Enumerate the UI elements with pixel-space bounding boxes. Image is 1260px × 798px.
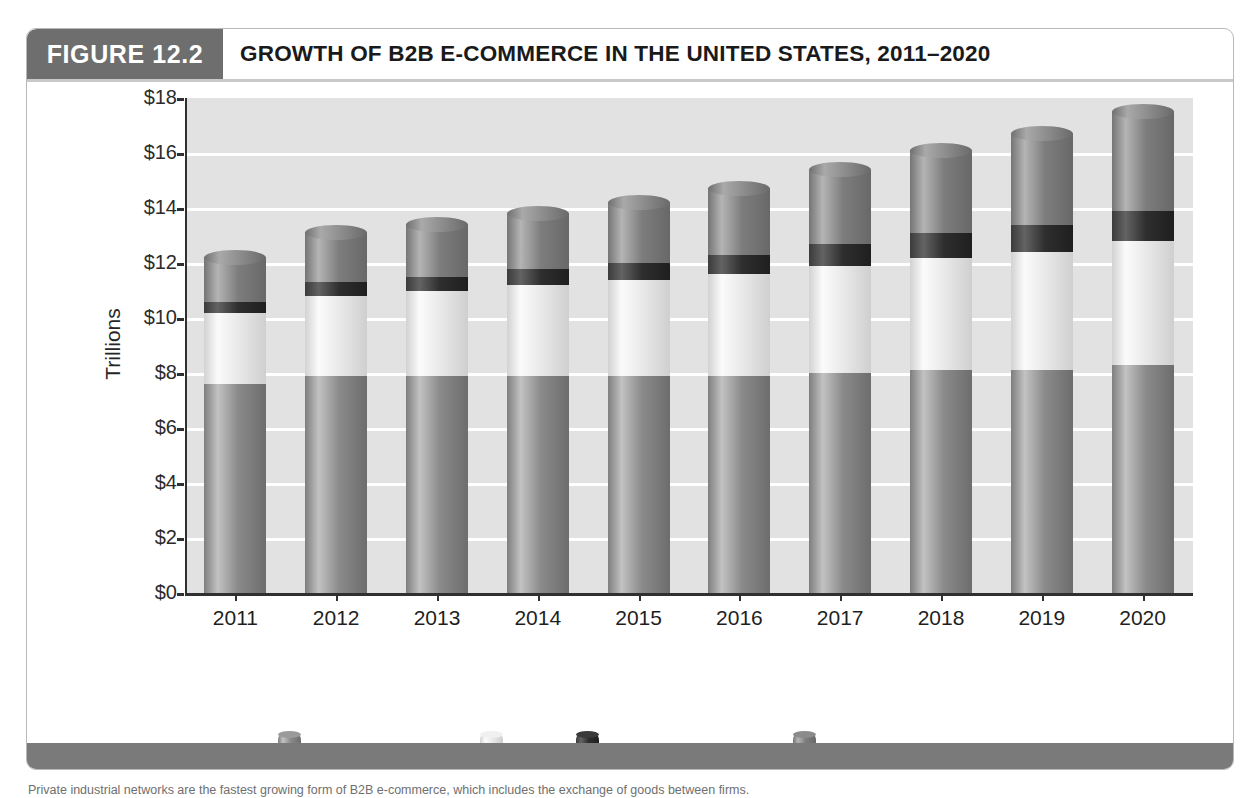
figure-number-label: FIGURE 12.2: [47, 40, 204, 69]
bar-segment: [809, 244, 871, 266]
bar-segment-body: [305, 282, 367, 296]
bar-segment-body: [204, 302, 266, 313]
y-axis-tick-mark: [177, 428, 184, 431]
y-axis-tick-label: $2: [117, 526, 177, 549]
bar-segment: [608, 263, 670, 280]
bar-segment: [406, 376, 468, 593]
bar-segment-body: [708, 189, 770, 255]
bar-segment-body: [910, 150, 972, 233]
bar-segment-body: [406, 376, 468, 593]
bar-segment: [809, 170, 871, 244]
figure-title: GROWTH OF B2B E-COMMERCE IN THE UNITED S…: [240, 29, 991, 79]
bar-segment: [1112, 211, 1174, 241]
bar-top-cap: [809, 162, 871, 177]
bar-series-group: [185, 98, 1193, 593]
y-axis-tick-label: $4: [117, 471, 177, 494]
bar-column: [204, 258, 266, 594]
y-axis-tick-mark: [177, 153, 184, 156]
x-axis-tick-mark: [739, 593, 741, 601]
bar-top-cap: [406, 217, 468, 232]
y-axis-tick-mark: [177, 263, 184, 266]
bar-segment: [507, 376, 569, 593]
x-axis-tick-mark: [1042, 593, 1044, 601]
bar-column: [708, 189, 770, 593]
bar-segment: [608, 203, 670, 264]
bar-segment-body: [910, 258, 972, 371]
bar-column: [608, 203, 670, 594]
legend-swatch-cap: [576, 731, 599, 738]
bar-segment-body: [809, 244, 871, 266]
bar-segment-body: [608, 376, 670, 593]
bar-segment-body: [809, 373, 871, 593]
y-axis-tick-label: $6: [117, 416, 177, 439]
y-axis-tick-label: $14: [117, 196, 177, 219]
bar-segment-body: [204, 384, 266, 593]
bar-segment: [406, 291, 468, 376]
bar-segment-body: [708, 376, 770, 593]
bar-segment: [507, 214, 569, 269]
bar-segment-body: [708, 274, 770, 376]
figure-title-label: GROWTH OF B2B E-COMMERCE IN THE UNITED S…: [240, 41, 991, 67]
bar-segment-body: [1011, 134, 1073, 225]
legend-swatch-cap: [480, 731, 503, 738]
bar-segment-body: [910, 233, 972, 258]
figure-footer-bar: [27, 743, 1233, 769]
figure-container: FIGURE 12.2 GROWTH OF B2B E-COMMERCE IN …: [26, 28, 1234, 770]
bar-segment-body: [305, 376, 367, 593]
bar-segment-body: [1112, 211, 1174, 241]
bar-segment-body: [1112, 365, 1174, 593]
bar-segment: [910, 150, 972, 233]
bar-segment-body: [406, 225, 468, 277]
bar-segment-body: [507, 269, 569, 286]
x-axis-tick-mark: [538, 593, 540, 601]
y-axis-tick-label: $0: [117, 581, 177, 604]
y-axis-tick-label: $18: [117, 86, 177, 109]
bar-segment: [204, 302, 266, 313]
bar-segment: [305, 233, 367, 283]
bar-segment: [1011, 225, 1073, 253]
bar-segment-body: [608, 203, 670, 264]
figure-header: FIGURE 12.2 GROWTH OF B2B E-COMMERCE IN …: [27, 29, 1233, 79]
bar-segment: [406, 277, 468, 291]
x-axis-tick-mark: [437, 593, 439, 601]
legend-swatch-cap: [793, 731, 816, 738]
bar-segment: [507, 269, 569, 286]
y-axis-tick-label: $10: [117, 306, 177, 329]
bar-column: [305, 233, 367, 593]
x-axis-tick-mark: [840, 593, 842, 601]
bar-segment: [1112, 365, 1174, 593]
x-axis-tick-label: 2020: [1083, 606, 1203, 630]
bar-segment-body: [809, 170, 871, 244]
bar-segment-body: [1112, 241, 1174, 365]
bar-top-cap: [608, 195, 670, 210]
bar-segment-body: [507, 214, 569, 269]
y-axis-tick-label: $16: [117, 141, 177, 164]
bar-segment: [910, 233, 972, 258]
bar-segment: [204, 313, 266, 385]
bar-segment: [708, 376, 770, 593]
bar-segment-body: [305, 233, 367, 283]
figure-caption: Private industrial networks are the fast…: [28, 784, 1238, 798]
bar-column: [406, 225, 468, 594]
bar-segment: [305, 376, 367, 593]
x-axis-tick-mark: [1143, 593, 1145, 601]
bar-segment-body: [305, 296, 367, 376]
x-axis-tick-mark: [235, 593, 237, 601]
y-axis-tick-label: $8: [117, 361, 177, 384]
y-axis-tick-mark: [177, 208, 184, 211]
bar-column: [910, 150, 972, 593]
bar-column: [809, 170, 871, 594]
x-axis-tick-mark: [336, 593, 338, 601]
bar-top-cap: [910, 143, 972, 158]
figure-number-badge: FIGURE 12.2: [27, 29, 223, 79]
bar-column: [1011, 134, 1073, 593]
bar-segment: [608, 280, 670, 376]
y-axis-tick-mark: [177, 373, 184, 376]
bar-segment-body: [1011, 370, 1073, 593]
bar-segment-body: [507, 285, 569, 376]
bar-segment: [1011, 134, 1073, 225]
bar-segment: [910, 258, 972, 371]
y-axis-tick-mark: [177, 483, 184, 486]
bar-segment-body: [608, 263, 670, 280]
bar-top-cap: [507, 206, 569, 221]
